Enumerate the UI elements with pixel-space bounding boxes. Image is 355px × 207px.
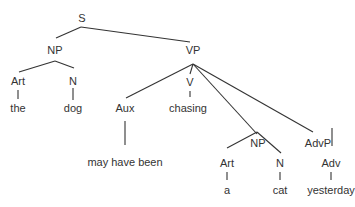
edge-vp-aux [126, 64, 193, 98]
node-adv: Adv [322, 158, 341, 169]
node-n1: N [69, 76, 77, 87]
node-art2: Art [220, 158, 234, 169]
node-cat: cat [273, 185, 288, 196]
edge-vp-advp [193, 64, 313, 132]
node-vp: VP [186, 45, 201, 56]
edge-np1-art1 [19, 61, 55, 72]
edge-s-np1 [56, 27, 81, 38]
node-np1: NP [47, 45, 62, 56]
node-v: V [186, 77, 193, 88]
node-mayhavebeen: may have been [87, 157, 162, 168]
edge-s-vp [81, 27, 190, 42]
node-n2: N [276, 158, 284, 169]
node-chasing: chasing [169, 103, 207, 114]
node-a: a [224, 185, 230, 196]
node-advp: AdvP [305, 138, 331, 149]
node-yesterday: yesterday [307, 185, 355, 196]
node-the: the [10, 103, 25, 114]
node-aux: Aux [116, 103, 135, 114]
node-dog: dog [64, 103, 82, 114]
edge-vp-np2 [193, 64, 257, 134]
node-art1: Art [11, 76, 25, 87]
node-np2: NP [250, 138, 265, 149]
node-s: S [78, 13, 85, 24]
edge-np1-n1 [55, 61, 74, 68]
